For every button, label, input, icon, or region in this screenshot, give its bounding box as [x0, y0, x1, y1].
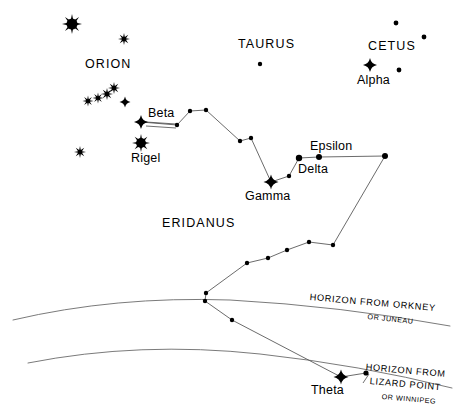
star-eri-1: [175, 123, 179, 127]
star-eri-9: [307, 240, 311, 244]
star-eri-8: [331, 243, 335, 247]
star-eri-2: [188, 109, 192, 113]
star-eri-13: [204, 291, 208, 295]
star-delta-eridani: [296, 155, 302, 161]
star-orion-upper-right: [118, 33, 130, 45]
star-eri-6: [287, 174, 291, 178]
star-betelgeuse: [62, 14, 82, 34]
star-cetus-dot-2: [422, 35, 427, 40]
star-cetus-dot-3: [397, 68, 402, 73]
star-label-delta: Delta: [298, 163, 328, 176]
star-eri-5: [249, 136, 253, 140]
sky-canvas: [0, 0, 460, 419]
star-label-rigel: Rigel: [131, 152, 161, 165]
star-rigel: [132, 134, 150, 152]
star-gamma-eridani: [264, 175, 279, 190]
star-beta-eridani: [134, 115, 148, 129]
star-label-theta: Theta: [311, 384, 344, 397]
star-eri-7: [382, 153, 388, 159]
star-taurus-dot: [258, 62, 262, 66]
star-eri-15: [230, 318, 234, 322]
star-label-beta: Beta: [148, 107, 175, 120]
star-belt-4: [108, 82, 120, 94]
constellation-label-cetus: CETUS: [368, 40, 416, 53]
label-leader-lines-group: [146, 122, 369, 383]
constellation-label-eridanus: ERIDANUS: [162, 217, 235, 230]
star-label-gamma: Gamma: [245, 190, 290, 203]
star-cetus-dot-1: [394, 21, 399, 26]
star-epsilon-eridani: [316, 154, 322, 160]
star-orion-lower-left: [74, 146, 86, 158]
star-label-epsilon: Epsilon: [310, 140, 352, 153]
horizon-lines-group: [13, 299, 452, 388]
star-eri-12: [245, 261, 249, 265]
star-belt-3: [101, 88, 113, 100]
star-eri-10: [285, 248, 289, 252]
constellation-label-taurus: TAURUS: [238, 38, 295, 51]
star-orion-cross-mid: [120, 97, 131, 108]
star-alpha-ceti: [363, 58, 377, 72]
star-eri-14: [203, 299, 207, 303]
star-eri-11: [266, 256, 270, 260]
star-belt-1: [83, 96, 94, 107]
star-eri-3: [204, 108, 208, 112]
star-chart: ORIONTAURUSCETUSERIDANUSAlphaBetaRigelGa…: [0, 0, 460, 419]
constellation-label-orion: ORION: [85, 58, 131, 71]
star-label-alpha: Alpha: [357, 74, 390, 87]
beta-leader-line: [146, 126, 176, 128]
star-eri-4: [238, 139, 242, 143]
